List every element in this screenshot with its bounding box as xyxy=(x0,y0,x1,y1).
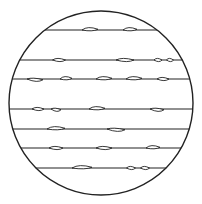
field-of-view-circle xyxy=(9,11,193,195)
fiber-swelling xyxy=(72,166,92,169)
fiber-swelling xyxy=(116,58,134,61)
fiber-swelling xyxy=(167,58,174,61)
fiber-group xyxy=(9,28,193,170)
fiber-swelling xyxy=(89,107,105,110)
fiber-swelling xyxy=(123,28,137,31)
fiber-swelling xyxy=(49,146,63,149)
fiber-swelling xyxy=(157,77,169,80)
fiber-swelling xyxy=(82,28,98,31)
fiber-diagram xyxy=(0,0,202,204)
fiber-swelling xyxy=(146,146,160,149)
fiber-swelling xyxy=(32,107,44,110)
fiber-swelling xyxy=(96,77,112,80)
fiber-swelling xyxy=(60,77,72,80)
fiber-swelling xyxy=(126,77,142,80)
fiber-swelling xyxy=(141,166,150,169)
fiber-swelling xyxy=(127,166,136,169)
fiber-swelling xyxy=(47,127,65,130)
fiber-swelling xyxy=(53,58,66,61)
fiber-swelling xyxy=(96,146,112,149)
fiber-swelling xyxy=(154,58,162,61)
